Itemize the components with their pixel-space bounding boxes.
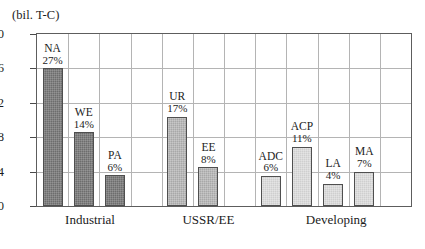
bar-we: [74, 132, 94, 206]
vertical-gridline: [99, 34, 100, 206]
bar-acp: [292, 147, 312, 206]
bar-chart: (bil. T-C) 0.00.40.81.21.62.0 NA27%WE14%…: [0, 0, 425, 249]
bar-label-name: LA: [325, 157, 340, 169]
y-axis-tick-label: 2.0: [0, 27, 4, 42]
vertical-gridline: [68, 34, 69, 206]
bar-label-name: PA: [108, 149, 122, 161]
bar-la: [323, 184, 343, 206]
vertical-gridline: [224, 34, 225, 206]
vertical-gridline: [286, 34, 287, 206]
bar-ur: [167, 117, 187, 206]
bar-pa: [105, 175, 125, 206]
plot-area: NA27%WE14%PA6%UR17%EE8%ADC6%ACP11%LA4%MA…: [36, 33, 412, 207]
bar-label-percent: 7%: [345, 158, 384, 169]
bar-na: [43, 68, 63, 206]
bar-label-name: ACP: [291, 120, 313, 132]
bar-label-adc: ADC6%: [251, 151, 290, 174]
y-axis-tick-label: 1.6: [0, 61, 4, 76]
bar-label-name: UR: [169, 90, 185, 102]
bar-label-ma: MA7%: [345, 146, 384, 169]
y-axis-tick-label: 1.2: [0, 95, 4, 110]
vertical-gridline: [349, 34, 350, 206]
y-axis-tick-label: 0.4: [0, 164, 4, 179]
bar-ee: [198, 167, 218, 206]
vertical-gridline: [131, 34, 132, 206]
y-axis-tick-label: 0.8: [0, 130, 4, 145]
bar-adc: [261, 176, 281, 206]
bar-ma: [354, 172, 374, 206]
bar-label-percent: 27%: [33, 55, 72, 66]
bar-label-na: NA27%: [33, 43, 72, 66]
vertical-gridline: [318, 34, 319, 206]
y-axis-tick-label: 0.0: [0, 199, 4, 214]
bar-label-name: WE: [75, 106, 93, 118]
bar-label-acp: ACP11%: [282, 121, 321, 144]
bar-label-name: MA: [355, 145, 374, 157]
bar-label-ee: EE8%: [189, 142, 228, 165]
vertical-gridline: [255, 34, 256, 206]
bar-label-name: NA: [44, 42, 61, 54]
bar-label-percent: 8%: [189, 154, 228, 165]
bar-label-la: LA4%: [314, 158, 353, 181]
vertical-gridline: [193, 34, 194, 206]
group-label-ussr-ee: USSR/EE: [148, 212, 268, 228]
vertical-gridline: [162, 34, 163, 206]
vertical-gridline: [380, 34, 381, 206]
bar-label-pa: PA6%: [95, 150, 134, 173]
group-label-industrial: Industrial: [30, 212, 150, 228]
bar-label-percent: 14%: [64, 119, 103, 130]
bar-label-we: WE14%: [64, 107, 103, 130]
bar-label-name: EE: [201, 141, 215, 153]
y-axis-unit-label: (bil. T-C): [12, 8, 60, 23]
bar-label-percent: 17%: [158, 103, 197, 114]
bar-label-name: ADC: [259, 150, 283, 162]
group-label-developing: Developing: [276, 212, 396, 228]
bar-label-percent: 11%: [282, 133, 321, 144]
